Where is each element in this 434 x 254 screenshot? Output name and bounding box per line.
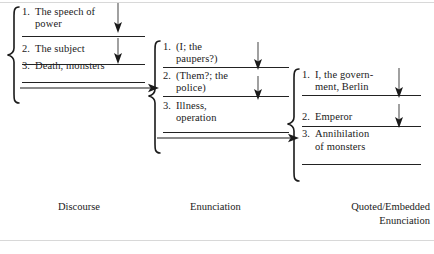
column-caption-quoted-embedded-enunciation: Quoted/Embedded Enunciation <box>304 200 430 227</box>
down-arrow-icon <box>110 3 126 34</box>
list-item: 3. Death, monsters <box>22 60 156 72</box>
item-underline <box>163 96 289 97</box>
column-caption-enunciation: Enunciation <box>190 200 241 214</box>
item-text: Illness, operation <box>176 100 299 125</box>
item-text: Death, monsters <box>35 60 156 72</box>
item-text: Annihilation of monsters <box>315 128 431 153</box>
item-text: (Them?; the police) <box>176 70 299 95</box>
item-underline <box>22 64 145 65</box>
page-rule-bottom <box>0 240 434 241</box>
page-rule-top <box>0 2 434 3</box>
down-arrow-icon <box>110 38 126 65</box>
list-item: 1. (I; the paupers?) <box>163 41 299 66</box>
list-item: 1. The speech of power <box>22 6 156 31</box>
item-number: 3. <box>302 128 315 140</box>
item-list-enunciation: 1. (I; the paupers?) 2. (Them?; the poli… <box>163 40 299 124</box>
down-arrow-icon <box>391 68 407 99</box>
item-underline <box>22 36 145 37</box>
item-text: The subject <box>35 43 156 55</box>
list-item: 2. Emperor <box>302 111 431 123</box>
item-number: 3. <box>22 60 35 72</box>
item-number: 3. <box>163 100 176 112</box>
right-arrow-icon <box>20 82 160 94</box>
item-underline <box>163 67 289 68</box>
item-number: 1. <box>302 69 315 81</box>
down-arrow-icon <box>250 76 266 101</box>
item-text: The speech of power <box>35 6 156 31</box>
list-item: 3. Annihilation of monsters <box>302 128 431 153</box>
figure-canvas: 1. The speech of power 2. The subject 3.… <box>0 0 434 254</box>
list-item: 3. Illness, operation <box>163 100 299 125</box>
down-arrow-icon <box>391 104 407 129</box>
right-arrow-icon <box>157 132 300 144</box>
item-list-discourse: 1. The speech of power 2. The subject 3.… <box>22 6 156 73</box>
item-text: Emperor <box>315 111 431 123</box>
item-number: 2. <box>163 70 176 82</box>
list-item: 1. I, the govern- ment, Berlin <box>302 69 431 94</box>
down-arrow-icon <box>250 42 266 71</box>
list-item: 2. The subject <box>22 43 156 55</box>
item-number: 1. <box>22 6 35 18</box>
item-number: 2. <box>302 111 315 123</box>
column-caption-discourse: Discourse <box>58 200 100 214</box>
column-group-quoted-embedded-enunciation: 1. I, the govern- ment, Berlin 2. Empero… <box>286 68 431 182</box>
item-list-quoted-embedded-enunciation: 1. I, the govern- ment, Berlin 2. Empero… <box>302 68 431 153</box>
item-number: 1. <box>163 41 176 53</box>
item-underline <box>302 164 421 165</box>
item-text: (I; the paupers?) <box>176 41 299 66</box>
item-text: I, the govern- ment, Berlin <box>315 69 431 94</box>
list-item: 2. (Them?; the police) <box>163 70 299 95</box>
item-number: 2. <box>22 43 35 55</box>
curly-brace-icon <box>286 68 302 182</box>
